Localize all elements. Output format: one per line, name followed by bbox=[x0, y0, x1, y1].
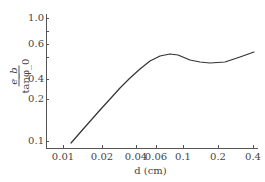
y-axis-label: e_b tanφ_0 bbox=[4, 56, 34, 96]
x-tick-label: 0.01 bbox=[52, 152, 74, 162]
data-line bbox=[71, 52, 254, 143]
x-tick-label: 0.02 bbox=[91, 152, 113, 162]
y-label-numerator: e_b bbox=[8, 65, 20, 86]
x-tick-label: 0.1 bbox=[175, 152, 191, 162]
y-tick-label: 1.0 bbox=[28, 13, 44, 23]
y-tick-label: 0.1 bbox=[28, 136, 44, 146]
y-label-denominator: tanφ_0 bbox=[20, 57, 31, 96]
x-axis-label: d (cm) bbox=[0, 165, 265, 176]
x-tick-label: 0.4 bbox=[245, 152, 261, 162]
y-tick-label: 0.6 bbox=[28, 39, 44, 49]
x-ticks bbox=[64, 145, 254, 148]
axes bbox=[46, 14, 258, 149]
x-tick-label: 0.06 bbox=[145, 152, 167, 162]
x-tick-label: 0.2 bbox=[210, 152, 226, 162]
x-tick-label: 0.04 bbox=[125, 152, 147, 162]
